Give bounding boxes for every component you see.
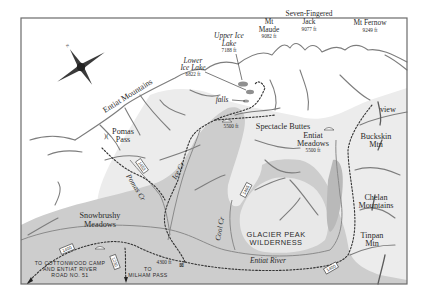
- trailhead-icon: ⊠: [179, 262, 184, 268]
- lower-ice-lake: [246, 90, 254, 94]
- entiat-meadows-elev: 5500 ft: [306, 147, 321, 153]
- buckskin-line2: Mtn: [369, 140, 383, 149]
- view-label: view: [380, 105, 396, 114]
- upper-ice-lake-elev: 7188 ft: [222, 47, 237, 53]
- cottonwood-line3: ROAD NO. 51: [51, 272, 88, 278]
- snowbrushy-line2: Meadows: [84, 220, 116, 229]
- falls-label: falls: [216, 95, 229, 104]
- entiat-river-label: Entiat River: [249, 256, 286, 265]
- peak-fernow-elev: 9249 ft: [363, 27, 378, 33]
- peak-maude-elev: 9082 ft: [262, 33, 277, 39]
- wilderness-line2: WILDERNESS: [250, 238, 303, 247]
- pass-icon: )(: [104, 132, 109, 140]
- pomas-pass-line2: Pass: [116, 135, 131, 144]
- camp-elev-label: 5500 ft: [224, 123, 239, 129]
- peak-jack-elev: 9077 ft: [302, 26, 317, 32]
- chelan-line2: Mountains: [358, 201, 393, 210]
- spectacle-buttes-label: Spectacle Buttes: [256, 122, 310, 131]
- peak-fernow-line1: Mt Fernow: [353, 18, 387, 27]
- trailhead-elev-label: 4300 ft: [157, 259, 172, 265]
- upper-ice-lake: [238, 81, 248, 86]
- tinpan-line2: Mtn: [365, 239, 379, 248]
- snowbrushy-line1: Snowbrushy: [80, 211, 122, 220]
- peak-jack-line2: Jack: [302, 17, 315, 26]
- trail-map: N Entiat Mountains Mt Maude 9082 ft Seve…: [0, 0, 426, 298]
- milham-line2: MILHAM PASS: [128, 272, 168, 278]
- lower-ice-lake-elev: 6822 ft: [186, 71, 201, 77]
